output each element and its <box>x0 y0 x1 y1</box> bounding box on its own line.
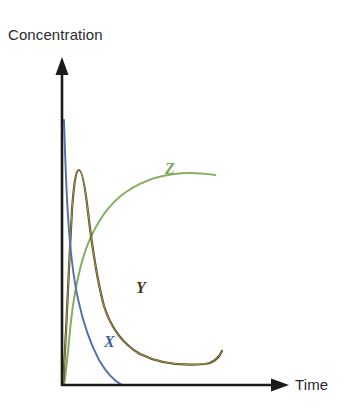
curve-label-y: Y <box>136 280 146 296</box>
x-axis-title: Time <box>295 377 328 392</box>
concentration-vs-time-plot <box>0 0 352 418</box>
y-axis-title: Concentration <box>8 27 103 42</box>
plot-background <box>0 0 352 418</box>
curve-label-z: Z <box>165 161 175 177</box>
curve-label-x: X <box>104 334 115 350</box>
